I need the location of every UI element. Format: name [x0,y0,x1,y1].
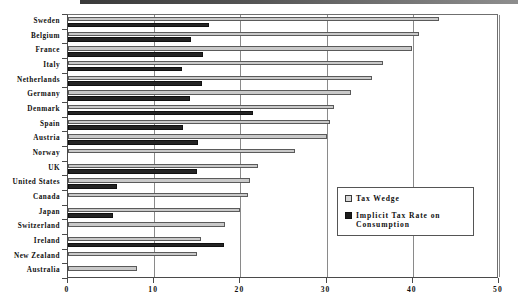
legend-item-tax-wedge: Tax Wedge [345,194,473,204]
y-axis-label-japan: Japan [39,208,60,216]
x-axis-tick-40 [412,278,413,283]
bar-implicit-tax-rate [68,184,117,188]
bar-tax-wedge [68,178,250,182]
plot-area [67,14,498,278]
bar-tax-wedge [68,149,295,153]
bar-implicit-tax-rate [68,67,182,71]
x-axis-label-0: 0 [65,285,70,294]
bar-tax-wedge [68,266,137,270]
x-axis-tick-0 [67,278,68,283]
y-axis-label-denmark: Denmark [27,105,60,113]
bar-tax-wedge [68,17,439,21]
bar-group-new-zealand [68,250,497,264]
bar-tax-wedge [68,61,383,65]
y-axis-label-uk: UK [48,164,60,172]
bar-implicit-tax-rate [68,23,209,27]
bar-implicit-tax-rate [68,111,253,115]
bar-tax-wedge [68,222,225,226]
bar-group-australia [68,265,497,279]
x-axis-label-50: 50 [493,285,503,294]
y-axis-label-sweden: Sweden [33,17,60,25]
y-axis-label-united-states: United States [13,178,60,186]
bar-implicit-tax-rate [68,96,190,100]
x-axis-label-10: 10 [148,285,158,294]
y-axis-label-spain: Spain [40,120,60,128]
bar-rows [68,15,497,277]
bar-group-spain [68,118,497,132]
bar-implicit-tax-rate [68,81,202,85]
y-axis-label-austria: Austria [33,134,60,142]
bar-group-netherlands [68,74,497,88]
y-axis-label-australia: Australia [27,266,60,274]
bar-tax-wedge [68,76,372,80]
bar-tax-wedge [68,120,330,124]
x-axis-label-30: 30 [321,285,331,294]
bar-group-austria [68,133,497,147]
bar-tax-wedge [68,164,258,168]
bar-implicit-tax-rate [68,213,113,217]
legend-item-implicit-tax-rate: Implicit Tax Rate on Consumption [345,211,473,230]
legend-swatch-dark-icon [345,212,352,219]
bar-group-italy [68,60,497,74]
y-axis-label-norway: Norway [33,149,60,157]
y-axis-label-new-zealand: New Zealand [14,252,60,260]
bar-group-norway [68,148,497,162]
x-axis: 01020304050 [67,278,498,300]
chart-container: SwedenBelgiumFranceItalyNetherlandsGerma… [0,0,518,301]
y-axis-label-germany: Germany [27,90,60,98]
bar-group-uk [68,162,497,176]
bar-tax-wedge [68,46,412,50]
x-axis-tick-30 [326,278,327,283]
x-axis-tick-10 [153,278,154,283]
bar-implicit-tax-rate [68,37,191,41]
y-axis-label-belgium: Belgium [31,32,60,40]
legend-swatch-light-icon [345,195,352,202]
bar-group-belgium [68,30,497,44]
bar-implicit-tax-rate [68,140,198,144]
bar-tax-wedge [68,134,327,138]
legend-label: Tax Wedge [356,194,400,204]
bar-implicit-tax-rate [68,243,224,247]
bar-tax-wedge [68,90,351,94]
bar-tax-wedge [68,193,248,197]
legend-label: Implicit Tax Rate on Consumption [356,211,473,230]
y-axis-label-ireland: Ireland [34,237,60,245]
x-axis-tick-50 [498,278,499,283]
y-axis-label-switzerland: Switzerland [18,222,60,230]
bar-tax-wedge [68,252,197,256]
bar-tax-wedge [68,105,334,109]
y-axis-category-labels: SwedenBelgiumFranceItalyNetherlandsGerma… [0,14,64,278]
bar-implicit-tax-rate [68,52,203,56]
bar-group-germany [68,89,497,103]
x-axis-label-20: 20 [234,285,244,294]
bar-tax-wedge [68,237,201,241]
legend: Tax Wedge Implicit Tax Rate on Consumpti… [337,187,474,236]
y-axis-label-italy: Italy [43,61,60,69]
x-axis-label-40: 40 [407,285,417,294]
y-axis-label-netherlands: Netherlands [17,76,60,84]
y-axis-label-canada: Canada [33,193,60,201]
bar-implicit-tax-rate [68,125,183,129]
gridline-50 [499,15,500,277]
bar-group-denmark [68,104,497,118]
y-axis-label-france: France [35,46,60,54]
bar-tax-wedge [68,208,240,212]
bar-implicit-tax-rate [68,169,197,173]
bar-group-france [68,45,497,59]
x-axis-tick-20 [239,278,240,283]
bar-group-sweden [68,16,497,30]
top-border-band [80,0,518,4]
bar-tax-wedge [68,32,419,36]
bar-group-ireland [68,236,497,250]
